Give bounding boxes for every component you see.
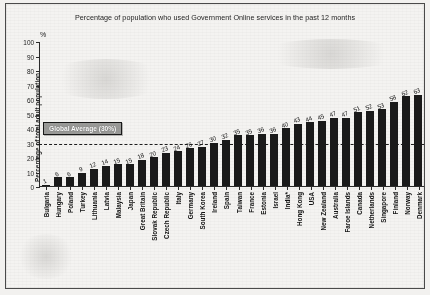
bar-value-label: 6 bbox=[66, 170, 72, 178]
bar-slot: 20 bbox=[148, 42, 160, 186]
bar-value-label: 27 bbox=[196, 139, 205, 148]
bar: 30 bbox=[210, 143, 217, 187]
bar-slot: 36 bbox=[268, 42, 280, 186]
x-axis-category-label: Hungary bbox=[55, 192, 62, 218]
bar-value-label: 51 bbox=[352, 104, 361, 113]
bar-value-label: 47 bbox=[328, 110, 337, 119]
bar: 52 bbox=[366, 111, 373, 186]
x-axis-category-label: Bulgaria bbox=[43, 192, 50, 217]
bar-slot: 23 bbox=[160, 42, 172, 186]
bar-value-label: 62 bbox=[400, 88, 409, 97]
bar-slot: 52 bbox=[364, 42, 376, 186]
bar-slot: 51 bbox=[352, 42, 364, 186]
bar-value-label: 52 bbox=[364, 102, 373, 111]
x-axis-label-slot: USA bbox=[305, 192, 317, 287]
bar: 36 bbox=[258, 134, 265, 186]
y-axis-unit-label: % bbox=[40, 31, 46, 38]
bar-value-label: 15 bbox=[124, 156, 133, 165]
x-axis-label-slot: Estonia bbox=[257, 192, 269, 287]
x-axis-label-slot: Bulgaria bbox=[40, 192, 52, 287]
x-axis-category-label: Poland bbox=[67, 192, 74, 213]
y-axis-tick-label: 70 bbox=[27, 82, 34, 89]
bar: 35 bbox=[234, 135, 241, 186]
bar-value-label: 53 bbox=[376, 101, 385, 110]
bar-value-label: 40 bbox=[280, 120, 289, 129]
x-axis-label-slot: Great Britain bbox=[136, 192, 148, 287]
bar: 18 bbox=[138, 160, 145, 186]
x-axis-label-slot: Germany bbox=[184, 192, 196, 287]
x-axis-label-slot: Australia bbox=[329, 192, 341, 287]
x-axis-label-slot: Denmark bbox=[413, 192, 425, 287]
bar-slot: 30 bbox=[208, 42, 220, 186]
bar: 40 bbox=[282, 128, 289, 186]
bar-value-label: 26 bbox=[184, 140, 193, 149]
bar-slot: 35 bbox=[232, 42, 244, 186]
x-axis-label-slot: Ireland bbox=[208, 192, 220, 287]
x-axis-label-slot: Faroe Islands bbox=[341, 192, 353, 287]
bar: 58 bbox=[390, 102, 397, 186]
bar: 32 bbox=[222, 140, 229, 186]
bar-slot: 40 bbox=[280, 42, 292, 186]
x-axis-tick bbox=[233, 187, 245, 191]
x-axis-category-label: Italy bbox=[175, 192, 182, 205]
bar-slot: 44 bbox=[304, 42, 316, 186]
bar-value-label: 20 bbox=[148, 149, 157, 158]
x-axis-tick bbox=[136, 187, 148, 191]
bar-value-label: 30 bbox=[208, 134, 217, 143]
bar-value-label: 63 bbox=[412, 86, 421, 95]
bar-value-label: 12 bbox=[88, 160, 97, 169]
bar-value-label: 32 bbox=[220, 131, 229, 140]
bar: 36 bbox=[270, 134, 277, 186]
bar-value-label: 47 bbox=[340, 110, 349, 119]
y-axis-tick-label: 60 bbox=[27, 97, 34, 104]
x-axis-category-label: Taiwan bbox=[235, 192, 242, 213]
bar-slot: 12 bbox=[88, 42, 100, 186]
x-axis-category-label: Netherlands bbox=[367, 192, 374, 228]
y-axis-tick-label: 0 bbox=[30, 184, 34, 191]
bar-value-label: 18 bbox=[136, 152, 145, 161]
bar-slot: 27 bbox=[196, 42, 208, 186]
bar: 26 bbox=[186, 148, 193, 186]
x-axis-tick bbox=[220, 187, 232, 191]
bar-slot: 15 bbox=[112, 42, 124, 186]
x-axis-tick bbox=[64, 187, 76, 191]
bar: 6 bbox=[54, 177, 61, 186]
bar-value-label: 1 bbox=[42, 177, 48, 185]
x-axis-tick bbox=[293, 187, 305, 191]
x-axis-category-label: Faroe Islands bbox=[343, 192, 350, 233]
x-axis-label-slot: Taiwan bbox=[233, 192, 245, 287]
x-axis-category-label: Malaysia bbox=[115, 192, 122, 218]
x-axis-label-slot: Czech Republic bbox=[160, 192, 172, 287]
x-axis-label-slot: Finland bbox=[389, 192, 401, 287]
x-axis-label-slot: Lithuania bbox=[88, 192, 100, 287]
bar: 12 bbox=[90, 169, 97, 186]
bar: 20 bbox=[150, 157, 157, 186]
y-axis-tick-label: 20 bbox=[27, 155, 34, 162]
bar-slot: 53 bbox=[376, 42, 388, 186]
x-axis-category-label: Lithuania bbox=[91, 192, 98, 220]
x-axis-tick bbox=[281, 187, 293, 191]
bar-slot: 47 bbox=[328, 42, 340, 186]
bar-slot: 18 bbox=[136, 42, 148, 186]
x-axis-label-slot: Latvia bbox=[100, 192, 112, 287]
bar-slot: 45 bbox=[316, 42, 328, 186]
bar: 51 bbox=[354, 112, 361, 186]
bar-slot: 24 bbox=[172, 42, 184, 186]
x-axis-tick bbox=[257, 187, 269, 191]
plot-area: 0102030405060708090100 Global Average (3… bbox=[39, 42, 424, 187]
bar-slot: 63 bbox=[412, 42, 424, 186]
y-axis-tick-label: 100 bbox=[23, 39, 34, 46]
bar-series: 1669121415151820232426273032353536364043… bbox=[40, 42, 424, 186]
x-axis-label-slot: Poland bbox=[64, 192, 76, 287]
x-axis-label-slot: Spain bbox=[220, 192, 232, 287]
bar-slot: 36 bbox=[256, 42, 268, 186]
bar-value-label: 35 bbox=[244, 127, 253, 136]
x-axis-label-slot: Japan bbox=[124, 192, 136, 287]
x-axis-category-label: Ireland bbox=[211, 192, 218, 213]
x-axis-category-label: Hong Kong bbox=[295, 192, 302, 226]
x-axis-tick bbox=[389, 187, 401, 191]
y-axis-tick-label: 10 bbox=[27, 169, 34, 176]
bar: 9 bbox=[78, 173, 85, 186]
x-axis-category-label: Finland bbox=[391, 192, 398, 214]
screenshot-root: Percentage of population who used Govern… bbox=[0, 0, 430, 295]
